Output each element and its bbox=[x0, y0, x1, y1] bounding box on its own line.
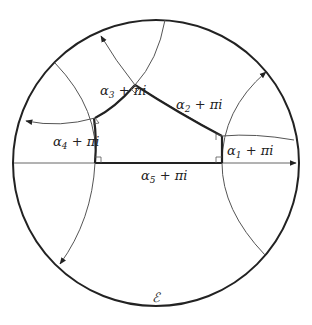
label-alpha5: α5 + πi bbox=[141, 168, 187, 185]
diagram-svg: α3 + πi α2 + πi α4 + πi α1 + πi α5 + πi … bbox=[0, 0, 312, 325]
hyperbolic-pentagon-diagram: α3 + πi α2 + πi α4 + πi α1 + πi α5 + πi … bbox=[0, 0, 312, 325]
label-alpha4: α4 + πi bbox=[53, 134, 99, 151]
label-alpha2: α2 + πi bbox=[176, 97, 222, 114]
label-alpha1: α1 + πi bbox=[227, 143, 273, 160]
boundary-label: ℰ bbox=[152, 290, 161, 305]
label-alpha3: α3 + πi bbox=[100, 83, 146, 100]
